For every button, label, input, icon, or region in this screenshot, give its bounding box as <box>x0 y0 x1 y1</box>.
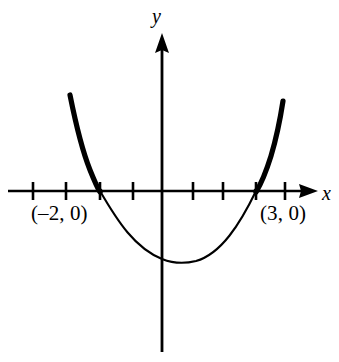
parabola-branch-left-thick <box>70 95 100 192</box>
root-marker-right <box>253 188 258 193</box>
right-root-label: (3, 0) <box>260 203 306 224</box>
x-axis-label: x <box>322 183 331 203</box>
x-axis-arrowhead <box>299 184 318 198</box>
plot-canvas <box>0 0 339 362</box>
y-axis-arrowhead <box>155 33 169 53</box>
y-axis-label: y <box>152 6 161 26</box>
left-root-label: (–2, 0) <box>31 203 88 224</box>
parabola-curve-thin <box>100 191 256 263</box>
parabola-branch-right-thick <box>256 101 283 192</box>
root-marker-left <box>97 188 102 193</box>
parabola-figure: y x (–2, 0) (3, 0) <box>0 0 339 362</box>
